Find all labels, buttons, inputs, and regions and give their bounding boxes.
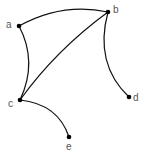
node-label-d: d xyxy=(133,92,139,103)
labels: a b c d e xyxy=(6,4,139,152)
node-d xyxy=(127,95,132,100)
nodes xyxy=(17,10,132,140)
edge-b-d xyxy=(104,12,129,97)
edge-a-b xyxy=(19,9,108,26)
node-a xyxy=(17,24,22,29)
node-label-b: b xyxy=(113,4,119,15)
edge-c-e xyxy=(20,100,69,137)
node-label-e: e xyxy=(66,141,72,152)
node-label-a: a xyxy=(6,19,12,30)
node-c xyxy=(18,98,23,103)
graph-diagram: a b c d e xyxy=(0,0,146,156)
node-e xyxy=(67,135,72,140)
node-b xyxy=(106,10,111,15)
edge-b-c xyxy=(20,12,108,100)
edges xyxy=(19,9,129,137)
edge-a-c xyxy=(19,26,29,100)
node-label-c: c xyxy=(8,98,13,109)
